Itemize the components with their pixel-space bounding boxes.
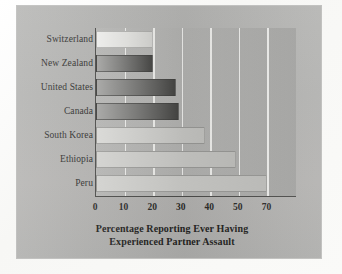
bar-row (96, 124, 296, 148)
category-label-south-korea: South Korea (17, 130, 93, 140)
x-tick-40: 40 (205, 202, 215, 212)
x-tick-70: 70 (262, 202, 272, 212)
x-tick-30: 30 (176, 202, 186, 212)
bar-row (96, 76, 296, 100)
x-axis-title-line-2: Experienced Partner Assault (57, 235, 287, 248)
x-tick-20: 20 (147, 202, 157, 212)
x-tick-0: 0 (93, 202, 98, 212)
category-label-ethiopia: Ethiopia (17, 154, 93, 164)
bar-south-korea (96, 127, 205, 144)
bar-row (96, 52, 296, 76)
chart-panel: SwitzerlandNew ZealandUnited StatesCanad… (17, 6, 321, 258)
category-label-new-zealand: New Zealand (17, 58, 93, 68)
bar-canada (96, 103, 179, 120)
bar-row (96, 172, 296, 196)
bar-row (96, 28, 296, 52)
bar-united-states (96, 79, 176, 96)
category-label-peru: Peru (17, 178, 93, 188)
bar-new-zealand (96, 55, 153, 72)
category-label-united-states: United States (17, 82, 93, 92)
bar-switzerland (96, 31, 153, 48)
bar-row (96, 148, 296, 172)
x-axis-title: Percentage Reporting Ever Having Experie… (57, 222, 287, 248)
bar-ethiopia (96, 151, 236, 168)
plot-area (95, 28, 296, 197)
category-label-switzerland: Switzerland (17, 34, 93, 44)
bar-row (96, 100, 296, 124)
x-tick-50: 50 (233, 202, 243, 212)
category-label-canada: Canada (17, 106, 93, 116)
figure-root: SwitzerlandNew ZealandUnited StatesCanad… (0, 0, 342, 274)
bar-peru (96, 175, 267, 192)
x-tick-10: 10 (119, 202, 129, 212)
x-axis-title-line-1: Percentage Reporting Ever Having (96, 223, 249, 234)
